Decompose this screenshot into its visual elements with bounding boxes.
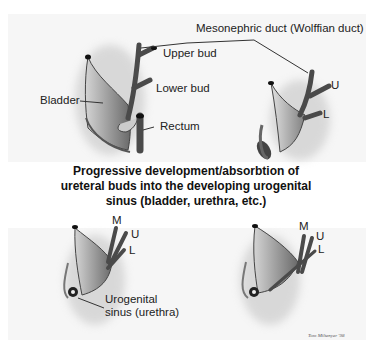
label-rectum: Rectum [160,120,200,132]
label-lower-bud: Lower bud [156,82,210,94]
label-urogenital-1: Urogenital [105,293,157,305]
diagram-title-line-1: Progressive development/absorbtion of [0,164,372,179]
label-bladder: Bladder [40,94,80,106]
mesonephric-pointer-2 [254,40,308,73]
stage2-bladder [254,72,330,162]
label-mesonephric-duct: Mesonephric duct (Wolffian duct) [196,22,364,34]
artist-credit: Tom Miltenyer '98 [308,333,344,338]
rectum-pointer [143,127,154,130]
label-upper-bud: Upper bud [163,47,217,59]
stage4-bladder [240,224,315,325]
label-stage2-u: U [331,79,339,91]
label-stage4-m: M [299,220,309,232]
stage1-bladder [75,45,157,155]
diagram-title-line-3: sinus (bladder, urethra, etc.) [0,194,372,209]
label-stage2-l: L [323,108,329,120]
diagram-title-line-2: ureteral buds into the developing urogen… [0,179,372,194]
label-stage3-m: M [112,214,122,226]
label-stage4-u: U [316,230,324,242]
label-stage3-l: L [129,244,135,256]
label-stage3-u: U [131,228,139,240]
label-stage4-l: L [318,243,324,255]
label-urogenital-2: sinus (urethra) [105,306,179,318]
